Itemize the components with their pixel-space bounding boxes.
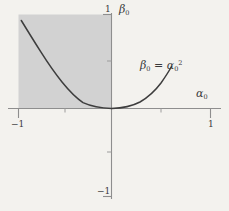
figure-canvas: β0 α0 −1 1 1 −1 β0 = α02 [0, 0, 229, 211]
x-axis-label: α0 [196, 88, 208, 100]
y-tick-label-pos1: 1 [105, 5, 111, 14]
plot-area [0, 0, 229, 211]
equation-rhs-superscript: 2 [178, 59, 182, 67]
x-axis-label-subscript: 0 [203, 93, 207, 101]
y-axis-label-subscript: 0 [125, 9, 129, 17]
y-tick-label-neg1: −1 [97, 187, 110, 196]
shaded-region [19, 15, 112, 109]
equation-equals-sign: = [154, 59, 163, 72]
x-tick-label-neg1: −1 [11, 120, 24, 129]
curve-equation-label: β0 = α02 [140, 60, 182, 72]
y-axis-label: β0 [119, 4, 130, 16]
x-tick-label-pos1: 1 [208, 120, 214, 129]
